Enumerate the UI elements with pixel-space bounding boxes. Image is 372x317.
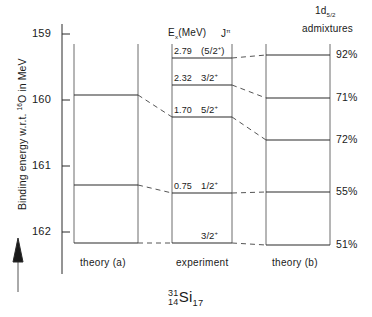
column-label-theory-a: theory (a) [80, 258, 126, 268]
admixture-value: 92% [336, 49, 358, 60]
axis-title-superscript: 16 [16, 103, 23, 110]
level-connector [232, 192, 266, 193]
admixture-value: 71% [336, 92, 358, 103]
level-excitation-energy: 1.70 [174, 106, 192, 115]
y-axis-title: Binding energy w.r.t. 16O in MeV [16, 58, 29, 210]
ex-column-header: Ex(MeV) [168, 28, 206, 40]
admixture-header-label: admixtures [302, 24, 353, 34]
level-connector [232, 55, 266, 58]
jpi-column-header: Jπ [221, 28, 231, 39]
level-spin-parity: 3/2+ [201, 73, 218, 83]
level-connector [138, 95, 172, 117]
y-axis-tick-label: 159 [32, 28, 51, 39]
nuclide-neutron-number: 17 [193, 298, 204, 308]
level-spin-parity: 1/2+ [201, 181, 218, 191]
nuclide-atomic-number: 14 [168, 298, 179, 307]
level-excitation-energy: 0.75 [174, 182, 192, 191]
nuclide-symbol: Si [179, 288, 193, 305]
column-label-theory-b: theory (b) [272, 258, 318, 268]
admixture-value: 72% [336, 134, 358, 145]
level-excitation-energy: 2.79 [174, 47, 192, 56]
energy-level-diagram: Binding energy w.r.t. 16O in MeV 1591601… [0, 0, 372, 317]
level-connector [232, 243, 266, 245]
level-spin-parity: 3/2+ [201, 231, 218, 241]
level-excitation-energy: 2.32 [174, 74, 192, 83]
level-connector [138, 185, 172, 193]
level-connector [232, 117, 266, 140]
axis-title-post: O in MeV [16, 58, 28, 103]
y-axis-tick-label: 162 [32, 226, 51, 237]
level-connector [232, 85, 266, 98]
y-axis-tick-label: 160 [32, 94, 51, 105]
admixture-header-orbital: 1d5/2 [315, 6, 336, 18]
column-label-experiment: experiment [176, 258, 228, 268]
y-axis-tick-label: 161 [32, 160, 51, 171]
level-spin-parity: (5/2+) [201, 46, 225, 56]
level-spin-parity: 5/2+ [201, 105, 218, 115]
admixture-value: 55% [336, 186, 358, 197]
nuclide-label: 31 14 Si17 [168, 289, 204, 309]
axis-title-pre: Binding energy w.r.t. [16, 110, 28, 210]
axis-direction-arrow-head [13, 238, 23, 262]
admixture-value: 51% [336, 239, 358, 250]
